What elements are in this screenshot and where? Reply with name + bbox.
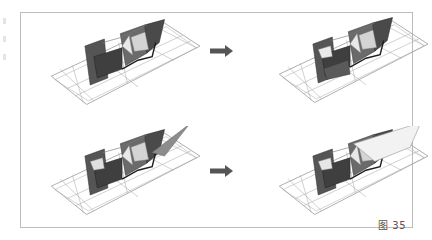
figure-caption: 图 35: [378, 217, 406, 232]
arrow-right-icon: [210, 165, 234, 177]
model-bottom-left: [30, 126, 215, 218]
margin-marks: [2, 16, 8, 66]
model-top-left: [30, 16, 215, 108]
model-top-right: [258, 14, 432, 106]
model-bottom-right: [258, 126, 432, 218]
arrow-right-icon: [210, 45, 234, 57]
